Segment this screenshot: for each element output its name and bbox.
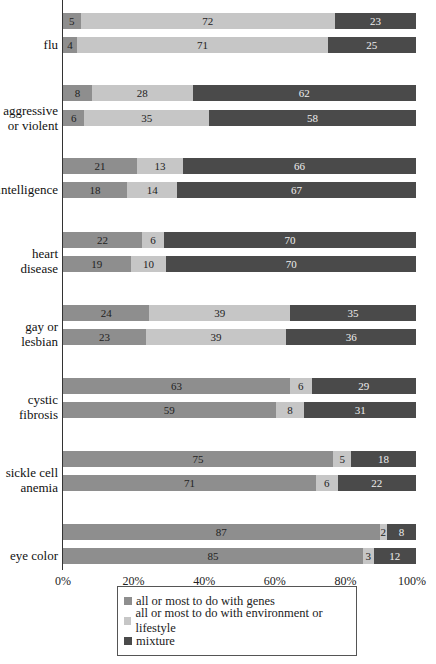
legend-item-environment: all or most to do with environment or li…: [124, 611, 350, 631]
bar-cystic-fibrosis: 63629: [63, 378, 416, 394]
bar-segment-m: 29: [312, 378, 416, 394]
bar-segment-g: 71: [63, 475, 316, 491]
bar-segment-g: 4: [63, 37, 77, 53]
bar-eye-color: 85312: [63, 548, 416, 564]
bar-segment-g: 59: [63, 402, 276, 418]
bar-segment-g: 63: [63, 378, 290, 394]
bar-segment-e: 14: [127, 182, 177, 198]
bar-intelligence: 181467: [63, 182, 416, 198]
bar-flu: 57223: [63, 13, 416, 29]
bar-segment-m: 67: [177, 182, 416, 198]
bar-gay-or-lesbian: 243935: [63, 305, 416, 321]
bar-segment-g: 18: [63, 182, 127, 198]
stacked-bar-chart: flu aggressiveor violent intelligence he…: [0, 0, 436, 664]
bar-segment-g: 19: [63, 256, 131, 272]
bar-intelligence: 211366: [63, 158, 416, 174]
bar-flu: 47125: [63, 37, 416, 53]
legend: all or most to do with genes all or most…: [117, 586, 357, 656]
bar-segment-m: 23: [335, 13, 416, 29]
bar-segment-m: 18: [351, 451, 416, 467]
category-label-sickle-cell: sickle cellanemia: [6, 465, 58, 495]
bar-segment-e: 5: [333, 451, 351, 467]
bar-segment-e: 3: [363, 548, 374, 564]
bar-segment-e: 8: [276, 402, 305, 418]
bar-segment-g: 75: [63, 451, 333, 467]
bar-segment-e: 35: [84, 110, 209, 126]
bar-heart-disease: 191070: [63, 256, 416, 272]
bar-segment-e: 71: [77, 37, 328, 53]
category-label-heart-disease: heartdisease: [20, 246, 58, 276]
bar-segment-m: 31: [304, 402, 416, 418]
bar-segment-m: 8: [387, 524, 416, 540]
bar-segment-g: 24: [63, 305, 149, 321]
bar-segment-m: 58: [209, 110, 416, 126]
bar-segment-m: 35: [290, 305, 416, 321]
bar-segment-e: 6: [290, 378, 312, 394]
bar-segment-g: 21: [63, 158, 137, 174]
bar-segment-g: 22: [63, 232, 142, 248]
x-tick: 100%: [398, 574, 426, 589]
bar-segment-e: 2: [380, 524, 387, 540]
bar-sickle-cell-anemia: 75518: [63, 451, 416, 467]
bar-segment-m: 66: [183, 158, 416, 174]
bar-segment-e: 6: [142, 232, 164, 248]
bar-segment-m: 62: [193, 85, 416, 101]
bar-segment-e: 39: [146, 329, 286, 345]
category-label-cystic-fibrosis: cysticfibrosis: [19, 392, 58, 422]
bar-segment-m: 12: [374, 548, 416, 564]
bar-gay-or-lesbian: 233936: [63, 329, 416, 345]
bar-heart-disease: 22670: [63, 232, 416, 248]
bar-eye-color: 8728: [63, 524, 416, 540]
category-label-gay-lesbian: gay orlesbian: [21, 319, 58, 349]
legend-swatch-icon: [124, 617, 131, 625]
category-label-intelligence: intelligence: [0, 182, 58, 197]
bar-segment-m: 70: [166, 256, 416, 272]
bar-segment-g: 5: [63, 13, 81, 29]
bar-segment-e: 28: [92, 85, 193, 101]
category-label-aggressive: aggressiveor violent: [3, 103, 58, 133]
legend-swatch-icon: [124, 597, 132, 605]
bar-sickle-cell-anemia: 71622: [63, 475, 416, 491]
bar-segment-g: 85: [63, 548, 363, 564]
bar-segment-g: 8: [63, 85, 92, 101]
bar-segment-e: 10: [131, 256, 167, 272]
bar-cystic-fibrosis: 59831: [63, 402, 416, 418]
bar-segment-m: 22: [338, 475, 416, 491]
bar-segment-g: 6: [63, 110, 84, 126]
category-label-eye-color: eye color: [10, 548, 58, 563]
bar-segment-e: 39: [149, 305, 289, 321]
legend-swatch-icon: [124, 637, 132, 645]
bar-segment-e: 13: [137, 158, 183, 174]
bar-aggressive-or-violent: 82862: [63, 85, 416, 101]
bar-segment-m: 70: [164, 232, 416, 248]
bar-segment-g: 23: [63, 329, 146, 345]
bar-segment-e: 72: [81, 13, 335, 29]
bar-segment-m: 25: [328, 37, 416, 53]
x-tick: 0%: [55, 574, 71, 589]
bar-segment-m: 36: [286, 329, 416, 345]
category-label-flu: flu: [44, 37, 58, 52]
bar-segment-g: 87: [63, 524, 380, 540]
bar-segment-e: 6: [316, 475, 337, 491]
bar-aggressive-or-violent: 63558: [63, 110, 416, 126]
